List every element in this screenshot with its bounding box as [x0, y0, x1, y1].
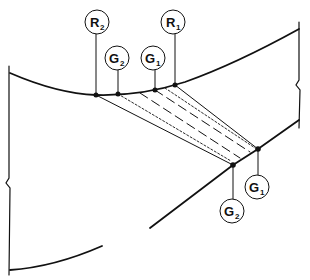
- dashed-connector-g1-b: [155, 90, 250, 152]
- solid-connector-r2-g2: [96, 95, 233, 165]
- label-g2-bottom-main: G: [224, 204, 234, 219]
- label-r1-sub: 1: [176, 23, 181, 32]
- right-boundary-line: [296, 22, 300, 128]
- label-g2-bottom-sub: 2: [235, 212, 240, 221]
- left-boundary-line: [6, 66, 10, 275]
- point-g2-top: [116, 92, 121, 97]
- label-g1-bottom-sub: 1: [260, 188, 265, 197]
- point-g1-bottom: [255, 146, 261, 152]
- label-g2-top-sub: 2: [120, 59, 125, 68]
- point-g1-top: [153, 88, 158, 93]
- dotted-connector-g2: [118, 94, 231, 161]
- point-r1: [173, 83, 178, 88]
- label-r2-main: R: [90, 15, 100, 30]
- label-r1-main: R: [166, 15, 176, 30]
- label-g2-top-main: G: [109, 51, 119, 66]
- label-g1-bottom-main: G: [249, 180, 259, 195]
- solid-connector-r1-g1: [175, 85, 258, 149]
- label-r2-sub: 2: [100, 23, 105, 32]
- label-g1-top-sub: 1: [156, 59, 161, 68]
- label-g1-top-main: G: [145, 51, 155, 66]
- point-r2: [94, 93, 99, 98]
- bottom-surface-curve: [10, 246, 102, 270]
- point-g2-bottom: [230, 162, 236, 168]
- surface-contact-diagram: R 2 G 2 G 1 R 1 G 1 G 2: [0, 0, 310, 280]
